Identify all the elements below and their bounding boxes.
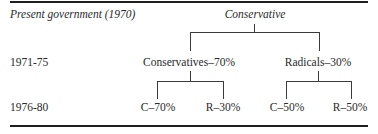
bottom-rule	[10, 125, 368, 127]
tree-connectors	[0, 0, 378, 134]
